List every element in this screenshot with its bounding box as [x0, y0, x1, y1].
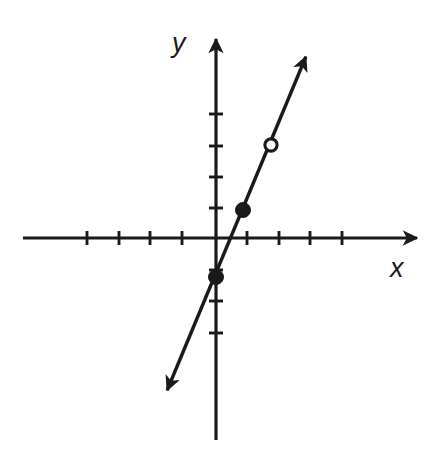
closed-point-lower: [209, 270, 224, 285]
coordinate-plane-svg: [0, 0, 448, 453]
y-axis-label: y: [172, 30, 186, 57]
plotted-line: [167, 57, 306, 390]
x-axis-group: [23, 231, 417, 245]
x-axis-label: x: [390, 255, 404, 282]
graph-figure: y x: [0, 0, 448, 453]
plotted-line-group: [167, 57, 306, 390]
closed-point-upper: [236, 203, 251, 218]
open-point: [265, 139, 277, 151]
